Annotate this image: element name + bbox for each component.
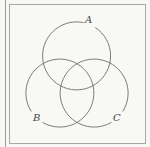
circle-a <box>43 22 111 90</box>
set-label-c: C <box>113 112 121 123</box>
set-label-b: B <box>32 112 40 123</box>
set-label-a: A <box>84 14 92 25</box>
venn-diagram: A B C <box>0 0 150 147</box>
